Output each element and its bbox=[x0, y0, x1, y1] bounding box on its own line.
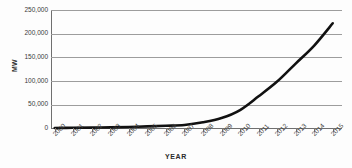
series-line bbox=[55, 23, 333, 128]
y-tick-label: 100,000 bbox=[4, 78, 48, 85]
y-tick-label: 250,000 bbox=[4, 7, 48, 14]
y-tick-label: 200,000 bbox=[4, 30, 48, 37]
y-axis-tick-labels: 050,000100,000150,000200,000250,000 bbox=[0, 0, 48, 140]
series-line-layer bbox=[51, 10, 342, 131]
plot-area bbox=[51, 10, 342, 129]
x-axis-title: YEAR bbox=[0, 153, 352, 160]
y-tick-label: 50,000 bbox=[4, 101, 48, 108]
y-tick-label: 150,000 bbox=[4, 54, 48, 61]
chart-container: MW 050,000100,000150,000200,000250,000 2… bbox=[0, 0, 352, 168]
